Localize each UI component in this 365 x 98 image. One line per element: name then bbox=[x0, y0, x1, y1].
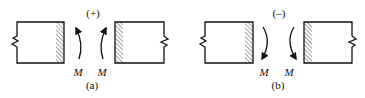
moment-arrow-left-ccw-icon bbox=[76, 28, 81, 59]
panel-a bbox=[12, 22, 168, 63]
moment-label-left: M bbox=[73, 67, 82, 78]
moment-label-right: M bbox=[284, 67, 293, 78]
moment-arrow-right-cw-icon bbox=[101, 28, 106, 59]
moment-label-right: M bbox=[97, 67, 106, 78]
beam-segment-left bbox=[200, 22, 253, 63]
bending-moment-sign-diagram bbox=[0, 0, 365, 98]
beam-segment-right bbox=[115, 22, 168, 63]
caption-b: (b) bbox=[272, 80, 285, 91]
moment-arrow-left-cw-icon bbox=[262, 27, 267, 59]
panel-b bbox=[200, 22, 356, 63]
hatched-section bbox=[115, 22, 123, 63]
moment-arrow-right-ccw-icon bbox=[290, 27, 296, 59]
hatched-section bbox=[56, 22, 64, 63]
hatched-section bbox=[245, 22, 253, 63]
beam-segment-left bbox=[12, 22, 64, 63]
caption-a: (a) bbox=[86, 80, 98, 91]
beam-segment-right bbox=[304, 22, 356, 63]
moment-label-left: M bbox=[259, 67, 268, 78]
sign-label-positive: (+) bbox=[86, 8, 100, 19]
hatched-section bbox=[304, 22, 312, 63]
sign-label-negative: (–) bbox=[273, 8, 286, 19]
